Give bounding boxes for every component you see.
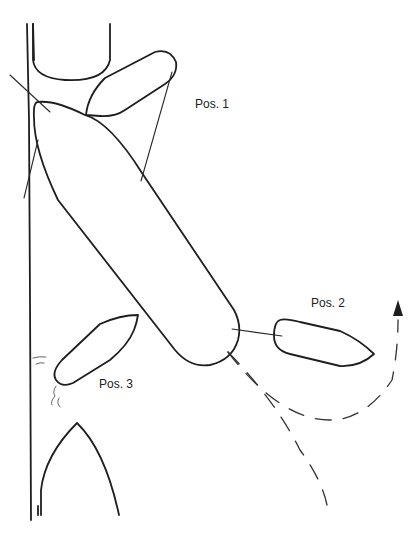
tug-track-dashed <box>228 320 398 505</box>
label-pos-3: Pos. 3 <box>99 377 133 391</box>
label-pos-1: Pos. 1 <box>195 97 229 111</box>
quay-wall <box>27 24 38 520</box>
direction-arrow-icon <box>393 300 403 316</box>
moored-ship-bottom <box>41 423 119 515</box>
moored-ship-top <box>33 24 110 80</box>
quay-scribbles <box>33 357 60 407</box>
tug-position-2 <box>274 319 374 366</box>
tug-position-3 <box>54 315 138 385</box>
label-pos-2: Pos. 2 <box>311 296 345 310</box>
maneuvering-diagram <box>0 0 420 534</box>
main-ship <box>34 102 240 366</box>
tow-lines <box>10 72 282 336</box>
